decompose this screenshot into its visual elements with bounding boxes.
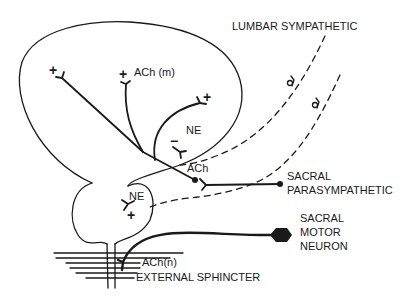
label-ach: ACh <box>187 162 208 174</box>
label-ne-lower: NE <box>129 190 144 202</box>
label-sacral-parasympathetic-1: SACRAL <box>287 170 331 182</box>
bladder-innervation-diagram: + + + − + LUMBAR SYMPATHETIC ACh (m) NE … <box>0 0 418 302</box>
label-ach-muscarinic: ACh (m) <box>134 66 175 78</box>
label-sacral-parasympathetic-2: PARASYMPATHETIC <box>287 184 393 196</box>
bladder-neck-left <box>72 183 107 244</box>
excitatory-symbol: + <box>49 62 57 78</box>
label-lumbar-sympathetic: LUMBAR SYMPATHETIC <box>232 20 358 32</box>
sacral-motor-neuron-soma <box>270 228 292 242</box>
excitatory-symbol: + <box>203 89 211 105</box>
sacral-parasympathetic-soma <box>277 181 283 187</box>
label-ach-nicotinic: ACh(n) <box>142 256 177 268</box>
excitatory-symbol: + <box>119 66 127 82</box>
inhibitory-symbol: − <box>170 133 178 149</box>
label-external-sphincter: EXTERNAL SPHINCTER <box>136 271 260 283</box>
urethra-left <box>107 244 108 288</box>
label-sacral-motor-3: NEURON <box>300 240 348 252</box>
ganglion-cell <box>192 177 198 183</box>
label-ne-upper: NE <box>186 124 201 136</box>
label-sacral-motor-1: SACRAL <box>300 212 344 224</box>
excitatory-symbol: + <box>127 207 135 223</box>
label-sacral-motor-2: MOTOR <box>300 226 341 238</box>
